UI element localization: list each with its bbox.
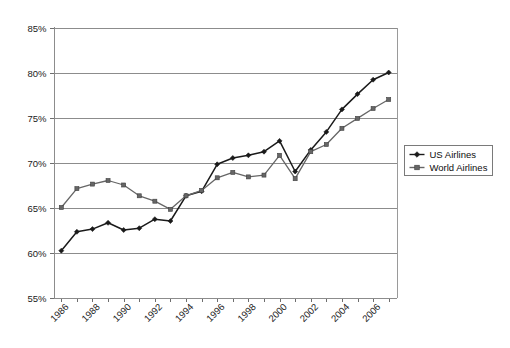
axis-lines	[54, 27, 398, 299]
data-point-marker	[293, 177, 297, 181]
data-point-marker	[137, 194, 141, 198]
data-point-marker	[106, 220, 111, 225]
data-point-marker	[278, 153, 282, 157]
x-tick-label-1996: 1996	[204, 301, 227, 324]
x-tick-label-2006: 2006	[360, 301, 383, 324]
chart-container: 55%60%65%70%75%80%85% 198619881990199219…	[0, 0, 510, 348]
data-point-marker	[168, 207, 172, 211]
x-tick-label-1994: 1994	[173, 301, 196, 324]
y-tick-label-80: 80%	[27, 68, 47, 79]
data-point-marker	[262, 173, 266, 177]
data-point-marker	[121, 228, 126, 233]
x-tick-label-2000: 2000	[266, 301, 289, 324]
data-point-marker	[356, 116, 360, 120]
x-tick-label-1990: 1990	[110, 301, 133, 324]
x-tick-label-2002: 2002	[297, 301, 320, 324]
x-tick-label-2004: 2004	[329, 301, 352, 324]
x-tick-label-1992: 1992	[142, 301, 165, 324]
data-point-marker	[90, 227, 95, 232]
data-point-marker	[309, 150, 313, 154]
y-tick-label-60: 60%	[27, 248, 47, 259]
series-us-airlines	[59, 70, 391, 253]
y-tick-label-85: 85%	[27, 23, 47, 34]
series-line	[61, 100, 388, 210]
x-axis-tick-labels: 1986198819901992199419961998200020022004…	[48, 301, 383, 324]
data-point-marker	[324, 142, 328, 146]
y-axis-tick-labels: 55%60%65%70%75%80%85%	[27, 23, 47, 304]
data-point-marker	[371, 106, 375, 110]
gridlines	[54, 29, 397, 254]
data-point-marker	[90, 182, 94, 186]
x-tick-label-1986: 1986	[48, 301, 71, 324]
y-tick-label-75: 75%	[27, 113, 47, 124]
y-tick-label-55: 55%	[27, 293, 47, 304]
data-point-marker	[184, 194, 188, 198]
chart-legend[interactable]: US AirlinesWorld Airlines	[405, 146, 493, 176]
series-line	[61, 73, 388, 251]
data-point-marker	[153, 199, 157, 203]
data-point-marker	[246, 175, 250, 179]
data-point-marker	[59, 205, 63, 209]
y-tick-label-65: 65%	[27, 203, 47, 214]
data-point-marker	[340, 126, 344, 130]
data-point-marker	[231, 170, 235, 174]
x-tick-label-1998: 1998	[235, 301, 258, 324]
legend-label: World Airlines	[430, 162, 488, 173]
data-point-marker	[122, 183, 126, 187]
data-point-marker	[415, 165, 420, 170]
series-world-airlines	[59, 97, 390, 211]
data-point-marker	[386, 70, 391, 75]
y-tick-label-70: 70%	[27, 158, 47, 169]
legend-label: US Airlines	[430, 149, 477, 160]
data-series	[59, 70, 391, 253]
x-tick-label-1988: 1988	[79, 301, 102, 324]
line-chart: 55%60%65%70%75%80%85% 198619881990199219…	[0, 0, 510, 348]
data-point-marker	[246, 153, 251, 158]
data-point-marker	[200, 188, 204, 192]
data-point-marker	[215, 176, 219, 180]
data-point-marker	[106, 178, 110, 182]
data-point-marker	[230, 156, 235, 161]
data-point-marker	[387, 97, 391, 101]
data-point-marker	[75, 187, 79, 191]
axis-tickmarks	[50, 29, 390, 302]
